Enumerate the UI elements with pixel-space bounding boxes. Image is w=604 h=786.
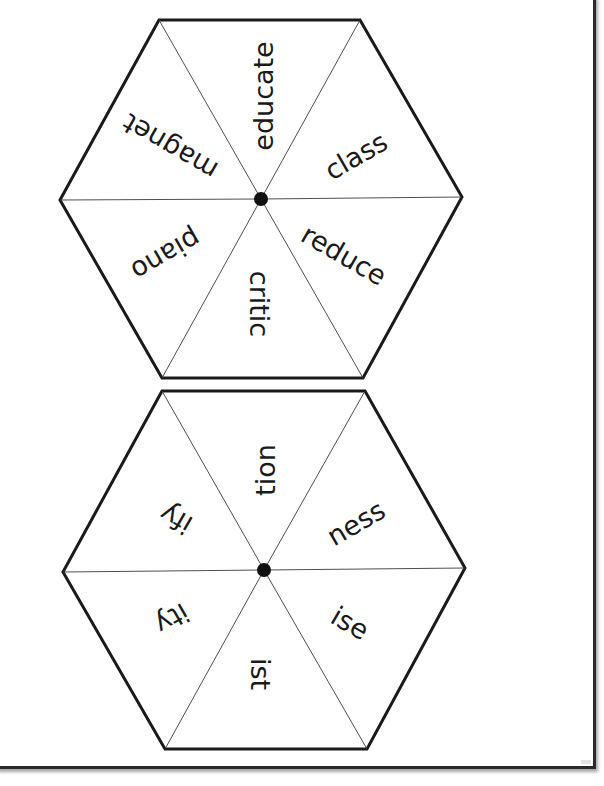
segment-label-top: tion <box>250 444 281 496</box>
pivot-dot-icon <box>257 563 271 577</box>
segment-label-top: educate <box>248 41 279 150</box>
spinner-sheet: educate class reduce critic piano magnet… <box>0 0 604 786</box>
segment-label-bottom: critic <box>244 271 275 337</box>
pivot-dot-icon <box>254 192 268 206</box>
spinner-suffixes: tion ness ise ist ity ify <box>63 391 465 749</box>
segment-label-bottom: ist <box>245 658 276 690</box>
spinner-base-words: educate class reduce critic piano magnet <box>60 20 462 378</box>
